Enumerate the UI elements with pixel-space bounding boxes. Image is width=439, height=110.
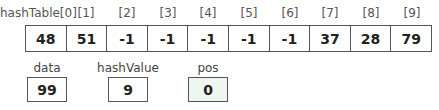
- index-label-3: [3]: [148, 6, 188, 20]
- array-cell-7: 37: [310, 26, 351, 51]
- variable-hashvalue: hashValue 9: [88, 60, 168, 102]
- variable-data: data 99: [7, 60, 87, 102]
- variable-label: data: [7, 60, 87, 76]
- array-cell-8: 28: [351, 26, 392, 51]
- index-label-5: [5]: [229, 6, 269, 20]
- index-label-4: [4]: [188, 6, 228, 20]
- array-cell-1: 51: [67, 26, 108, 51]
- array-cell-0: 48: [26, 26, 67, 51]
- array-cell-2: -1: [107, 26, 148, 51]
- array-cell-9: 79: [391, 26, 431, 51]
- variable-label: pos: [168, 60, 248, 76]
- index-label-2: [2]: [107, 6, 147, 20]
- array-cell-3: -1: [148, 26, 189, 51]
- index-label-6: [6]: [270, 6, 310, 20]
- index-label-1: [1]: [66, 6, 106, 20]
- index-label-7: [7]: [310, 6, 350, 20]
- index-label-0: hashTable[0]: [0, 6, 66, 20]
- variable-value-box-highlighted: 0: [188, 77, 228, 102]
- variable-value-box: 9: [108, 77, 148, 102]
- variable-label: hashValue: [88, 60, 168, 76]
- variable-value-box: 99: [27, 77, 67, 102]
- index-label-9: [9]: [392, 6, 432, 20]
- hash-table-array: 48 51 -1 -1 -1 -1 -1 37 28 79: [25, 25, 432, 52]
- array-cell-6: -1: [270, 26, 311, 51]
- index-label-8: [8]: [351, 6, 391, 20]
- array-index-labels: hashTable[0] [1] [2] [3] [4] [5] [6] [7]…: [0, 6, 439, 22]
- array-cell-4: -1: [188, 26, 229, 51]
- array-cell-5: -1: [229, 26, 270, 51]
- variable-pos: pos 0: [168, 60, 248, 102]
